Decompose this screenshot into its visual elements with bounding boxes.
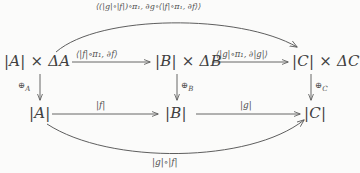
label-bottom-curve: |g|∘|f| — [152, 158, 178, 167]
label-top-mid-to-right: ⟨|g|∘π₁, ∂|g|⟩ — [216, 50, 268, 59]
label-vertical-left: ⊕A — [18, 81, 30, 92]
label-top-left-to-mid: ⟨|f|∘π₁, ∂f⟩ — [76, 50, 118, 59]
node-top-right: |C| × ΔC — [292, 54, 360, 69]
label-bottom-mid-to-right: |g| — [240, 101, 252, 110]
label-vertical-mid-sub: B — [188, 84, 193, 93]
arrow-top-curve — [56, 23, 297, 52]
label-vertical-right-sub: C — [322, 84, 327, 93]
node-bottom-mid: |B| — [165, 106, 187, 121]
node-top-mid: |B| × ΔB — [155, 54, 222, 69]
label-vertical-mid: ⊕B — [181, 81, 193, 92]
arrow-bottom-curve — [47, 120, 304, 154]
label-vertical-left-sub: A — [25, 84, 30, 93]
node-bottom-right: |C| — [304, 106, 326, 121]
label-vertical-right: ⊕C — [315, 81, 328, 92]
node-bottom-left: |A| — [29, 106, 51, 121]
node-top-left: |A| × ΔA — [4, 54, 70, 69]
label-top-curve: ⟨(|g|∘|f|)∘π₁, ∂g∘⟨|f|∘π₁, ∂f⟩⟩ — [96, 3, 201, 11]
label-bottom-left-to-mid: |f| — [96, 101, 105, 110]
